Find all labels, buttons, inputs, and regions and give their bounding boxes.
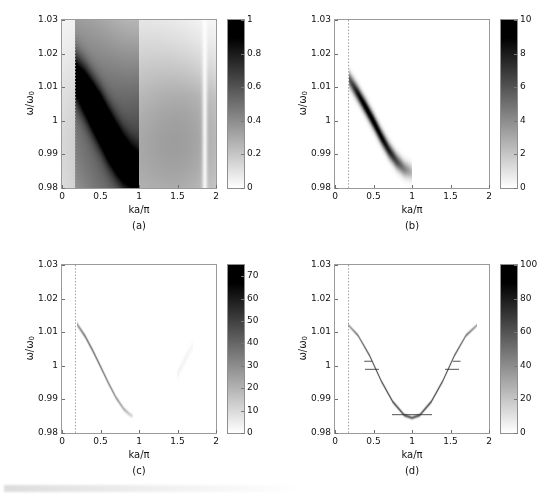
xtick-label: 0 xyxy=(319,437,351,446)
page-text-smudge xyxy=(4,485,304,492)
panel-c: 1.031.021.0110.990.9800.511.52ω/ω0ka/π(c… xyxy=(0,245,273,490)
xtick-mark xyxy=(412,430,413,433)
colorbar-tick-label: 0 xyxy=(247,183,253,192)
colorbar-tick-label: 0 xyxy=(520,183,526,192)
ytick-mark xyxy=(335,299,338,300)
y-axis-label-text: ω/ω xyxy=(24,95,35,115)
colorbar-tick-label: 8 xyxy=(520,49,526,58)
ytick-mark xyxy=(335,399,338,400)
ytick-mark xyxy=(335,54,338,55)
xtick-mark xyxy=(101,430,102,433)
colorbar-tick-label: 60 xyxy=(247,294,258,303)
colorbar-a xyxy=(228,20,244,188)
ytick-mark xyxy=(62,265,65,266)
xtick-mark xyxy=(62,185,63,188)
y-axis-label-subscript: 0 xyxy=(28,91,36,95)
xtick-label: 1.5 xyxy=(162,192,194,201)
xtick-label: 1.5 xyxy=(435,437,467,446)
y-axis-label-text: ω/ω xyxy=(297,95,308,115)
ytick-mark xyxy=(62,332,65,333)
ytick-label: 1.03 xyxy=(22,260,58,269)
xtick-mark xyxy=(216,185,217,188)
x-axis-label: ka/π xyxy=(335,204,489,215)
xtick-mark xyxy=(489,430,490,433)
heatmap-b xyxy=(335,20,489,188)
colorbar-tick-label: 0 xyxy=(520,428,526,437)
ytick-mark xyxy=(335,87,338,88)
xtick-label: 1.5 xyxy=(435,192,467,201)
ytick-mark xyxy=(62,87,65,88)
colorbar-tick xyxy=(241,411,244,412)
ytick-mark xyxy=(62,121,65,122)
colorbar-tick xyxy=(514,433,517,434)
colorbar-tick xyxy=(514,154,517,155)
colorbar-tick-label: 0.2 xyxy=(247,149,261,158)
panel-caption-b: (b) xyxy=(335,220,489,231)
xtick-mark xyxy=(178,185,179,188)
ytick-mark xyxy=(335,332,338,333)
xtick-label: 0.5 xyxy=(358,192,390,201)
colorbar-tick xyxy=(241,321,244,322)
xtick-label: 0.5 xyxy=(85,437,117,446)
ytick-label: 1.02 xyxy=(22,49,58,58)
colorbar-tick-label: 20 xyxy=(520,394,531,403)
colorbar-tick-label: 0 xyxy=(247,428,253,437)
ytick-mark xyxy=(335,188,338,189)
ytick-label: 0.99 xyxy=(295,394,331,403)
x-axis-label: ka/π xyxy=(62,204,216,215)
xtick-label: 2 xyxy=(200,192,232,201)
ytick-label: 0.98 xyxy=(22,183,58,192)
xtick-label: 1 xyxy=(123,437,155,446)
ytick-mark xyxy=(62,54,65,55)
colorbar-tick-label: 10 xyxy=(247,406,258,415)
panel-d: 1.031.021.0110.990.9800.511.52ω/ω0ka/π(d… xyxy=(273,245,546,490)
xtick-mark xyxy=(101,185,102,188)
ytick-mark xyxy=(62,299,65,300)
colorbar-tick-label: 60 xyxy=(520,327,531,336)
colorbar-tick xyxy=(514,121,517,122)
colorbar-tick-label: 0.4 xyxy=(247,116,261,125)
ytick-label: 1.03 xyxy=(22,15,58,24)
ytick-label: 1.03 xyxy=(295,15,331,24)
ytick-label: 1.03 xyxy=(295,260,331,269)
xtick-mark xyxy=(62,430,63,433)
heatmap-c xyxy=(62,265,216,433)
colorbar-tick xyxy=(514,366,517,367)
colorbar-tick-label: 40 xyxy=(520,361,531,370)
ytick-label: 1.02 xyxy=(295,49,331,58)
y-axis-label: ω/ω0 xyxy=(24,318,37,378)
y-axis-label-subscript: 0 xyxy=(28,336,36,340)
colorbar-tick xyxy=(241,121,244,122)
colorbar-tick xyxy=(514,87,517,88)
colorbar-tick-label: 70 xyxy=(247,271,258,280)
xtick-label: 2 xyxy=(200,437,232,446)
xtick-mark xyxy=(451,185,452,188)
xtick-mark xyxy=(178,430,179,433)
panel-caption-d: (d) xyxy=(335,465,489,476)
colorbar-tick xyxy=(241,154,244,155)
x-axis-label: ka/π xyxy=(335,449,489,460)
ytick-mark xyxy=(335,20,338,21)
colorbar-tick-label: 10 xyxy=(520,15,531,24)
colorbar-tick xyxy=(241,433,244,434)
colorbar-tick xyxy=(241,276,244,277)
xtick-label: 0.5 xyxy=(358,437,390,446)
y-axis-label-text: ω/ω xyxy=(24,340,35,360)
colorbar-b xyxy=(501,20,517,188)
xtick-label: 2 xyxy=(473,192,505,201)
colorbar-tick xyxy=(241,20,244,21)
colorbar-tick-label: 20 xyxy=(247,383,258,392)
ytick-mark xyxy=(62,20,65,21)
xtick-mark xyxy=(374,430,375,433)
ytick-mark xyxy=(335,265,338,266)
colorbar-tick xyxy=(514,265,517,266)
xtick-label: 1.5 xyxy=(162,437,194,446)
colorbar-tick-label: 1 xyxy=(247,15,253,24)
ytick-mark xyxy=(62,188,65,189)
xtick-label: 1 xyxy=(396,192,428,201)
ytick-mark xyxy=(62,154,65,155)
ytick-mark xyxy=(335,154,338,155)
colorbar-d xyxy=(501,265,517,433)
colorbar-tick xyxy=(514,399,517,400)
xtick-mark xyxy=(335,430,336,433)
